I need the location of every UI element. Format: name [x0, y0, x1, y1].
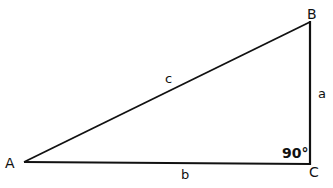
- side-b-label: b: [181, 167, 189, 182]
- vertex-a-label: A: [5, 155, 15, 171]
- vertex-c-label: C: [309, 164, 319, 180]
- side-b: [24, 162, 310, 164]
- side-a-label: a: [318, 86, 326, 101]
- side-c-label: c: [165, 71, 172, 86]
- vertex-b-label: B: [307, 6, 317, 22]
- right-triangle-diagram: A B C c a b 90°: [0, 0, 333, 188]
- triangle-canvas: A B C c a b 90°: [0, 0, 333, 188]
- side-c-hypotenuse: [24, 22, 310, 162]
- right-angle-label: 90°: [282, 145, 308, 161]
